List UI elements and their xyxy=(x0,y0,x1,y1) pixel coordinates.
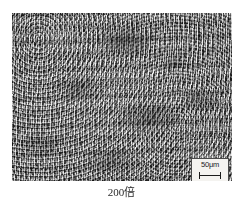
scale-bar-line xyxy=(199,175,221,176)
scale-bar-ruler-icon xyxy=(199,172,221,179)
scale-bar-label: 50μm xyxy=(201,160,219,169)
scale-bar-right-tick xyxy=(220,172,221,179)
micrograph-image: 50μm xyxy=(12,13,232,181)
vignette-layer xyxy=(12,13,232,181)
scale-bar: 50μm xyxy=(191,158,229,181)
figure-root: 50μm 200倍 xyxy=(0,0,243,204)
figure-caption: 200倍 xyxy=(0,185,243,199)
